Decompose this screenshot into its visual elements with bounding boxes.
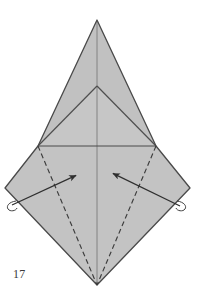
origami-diagram: 17: [0, 0, 197, 298]
step-number-label: 17: [13, 268, 26, 280]
hidden-flap-marker-right-icon: [176, 201, 186, 211]
origami-figure-svg: [0, 0, 197, 298]
hidden-flap-marker-left-icon: [7, 201, 17, 211]
